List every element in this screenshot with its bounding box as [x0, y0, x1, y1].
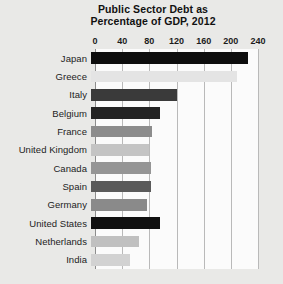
x-tick-label-0: 0	[92, 36, 97, 46]
bar-row[interactable]: United States	[0, 214, 283, 232]
bar-track	[91, 177, 283, 195]
bar-row[interactable]: Spain	[0, 177, 283, 195]
chart-title-line-1: Public Sector Debt as	[28, 4, 278, 16]
x-tick-label-80: 80	[144, 36, 154, 46]
bar-track	[91, 214, 283, 232]
bar-track	[91, 232, 283, 250]
bar-rows: JapanGreeceItalyBelgiumFranceUnited King…	[0, 49, 283, 269]
bar-category-label: India	[0, 254, 91, 265]
bar-category-label: Canada	[0, 163, 91, 174]
bar-row[interactable]: Japan	[0, 49, 283, 67]
chart-title: Public Sector Debt as Percentage of GDP,…	[28, 4, 278, 27]
bar-row[interactable]: Canada	[0, 159, 283, 177]
bar-united-kingdom[interactable]	[91, 144, 149, 156]
bar-belgium[interactable]	[91, 107, 160, 119]
bar-track	[91, 159, 283, 177]
x-axis-tick-labels: 04080120160200240	[0, 36, 283, 48]
source-note-truncated	[60, 272, 240, 281]
bar-germany[interactable]	[91, 199, 147, 211]
bar-category-label: United States	[0, 218, 91, 229]
bar-netherlands[interactable]	[91, 236, 139, 248]
bar-category-label: Netherlands	[0, 236, 91, 247]
bar-row[interactable]: Netherlands	[0, 232, 283, 250]
bar-row[interactable]: Belgium	[0, 104, 283, 122]
x-tick-label-120: 120	[169, 36, 184, 46]
bar-row[interactable]: India	[0, 251, 283, 269]
bar-france[interactable]	[91, 126, 152, 138]
bar-row[interactable]: Italy	[0, 86, 283, 104]
x-tick-label-40: 40	[117, 36, 127, 46]
bar-row[interactable]: France	[0, 122, 283, 140]
bar-track	[91, 251, 283, 269]
bar-italy[interactable]	[91, 89, 177, 101]
chart-title-line-2: Percentage of GDP, 2012	[28, 16, 278, 28]
bar-category-label: Germany	[0, 199, 91, 210]
bar-category-label: Belgium	[0, 108, 91, 119]
bar-united-states[interactable]	[91, 217, 160, 229]
bar-category-label: Japan	[0, 53, 91, 64]
bar-india[interactable]	[91, 254, 130, 266]
bar-canada[interactable]	[91, 162, 151, 174]
bar-track	[91, 49, 283, 67]
bar-category-label: Spain	[0, 181, 91, 192]
bar-track	[91, 196, 283, 214]
x-tick-label-240: 240	[250, 36, 265, 46]
bar-greece[interactable]	[91, 71, 237, 83]
bar-category-label: France	[0, 126, 91, 137]
bar-row[interactable]: Greece	[0, 67, 283, 85]
x-tick-label-160: 160	[196, 36, 211, 46]
bar-category-label: Greece	[0, 71, 91, 82]
bar-track	[91, 141, 283, 159]
x-tick-label-200: 200	[223, 36, 238, 46]
bar-row[interactable]: United Kingdom	[0, 141, 283, 159]
bar-japan[interactable]	[91, 52, 248, 64]
chart-figure: Public Sector Debt as Percentage of GDP,…	[0, 0, 283, 284]
bar-track	[91, 104, 283, 122]
bar-track	[91, 67, 283, 85]
bar-category-label: Italy	[0, 89, 91, 100]
bar-spain[interactable]	[91, 181, 151, 193]
bar-row[interactable]: Germany	[0, 196, 283, 214]
bar-category-label: United Kingdom	[0, 144, 91, 155]
bar-track	[91, 86, 283, 104]
bar-track	[91, 122, 283, 140]
